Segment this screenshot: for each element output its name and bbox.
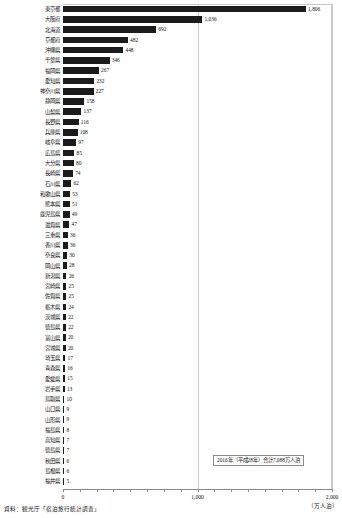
category-label: 愛知県 <box>0 76 60 86</box>
bar <box>63 108 81 115</box>
bar-and-value: 36 <box>63 240 75 250</box>
bar-row: 茨城県22 <box>0 312 342 322</box>
bar-row: 静岡県158 <box>0 96 342 106</box>
x-tick <box>181 489 182 492</box>
x-tick <box>164 489 165 492</box>
bar-row: 広島県85 <box>0 148 342 158</box>
bar-and-value: 9 <box>63 415 69 425</box>
bar-value-label: 108 <box>80 129 88 136</box>
bar <box>63 437 64 444</box>
category-label: 福島県 <box>0 425 60 435</box>
bar-row: 山口県9 <box>0 404 342 414</box>
bar-value-label: 22 <box>68 324 73 331</box>
bar <box>63 375 65 382</box>
legend-annotation-box: 2016年（平成28年）合計7,088万人泊 <box>213 455 304 466</box>
bar-value-label: 24 <box>68 304 73 311</box>
category-label: 広島県 <box>0 148 60 158</box>
bar <box>63 6 306 13</box>
category-label: 鳥取県 <box>0 394 60 404</box>
bar-value-label: 116 <box>81 119 89 126</box>
bar-and-value: 15 <box>63 374 73 384</box>
bar-and-value: 85 <box>63 148 82 158</box>
bar-and-value: 20 <box>63 343 73 353</box>
bar-row: 東京都1,806 <box>0 4 342 14</box>
bar <box>63 221 69 228</box>
category-label: 神奈川県 <box>0 86 60 96</box>
bar-row: 岡山県28 <box>0 261 342 271</box>
bar-value-label: 7 <box>66 447 69 454</box>
bar-and-value: 62 <box>63 179 79 189</box>
bar <box>63 396 64 403</box>
bar-and-value: 13 <box>63 384 72 394</box>
x-axis-unit-label: （万人泊） <box>308 502 338 510</box>
bar-value-label: 47 <box>72 221 77 228</box>
x-tick <box>80 489 81 492</box>
bar-row: 鳥取県10 <box>0 394 342 404</box>
bar-row: 山形県9 <box>0 415 342 425</box>
bar-chart: 東京都1,806大阪府1,036北海道692京都府482沖縄県448千葉県346… <box>0 0 342 518</box>
bar-and-value: 6 <box>63 456 69 466</box>
x-tick <box>282 489 283 492</box>
bar <box>63 78 94 85</box>
category-label: 兵庫県 <box>0 127 60 137</box>
bar-value-label: 62 <box>74 180 79 187</box>
bar-row: 栃木県24 <box>0 302 342 312</box>
bar-and-value: 22 <box>63 312 74 322</box>
bar-row: 兵庫県108 <box>0 127 342 137</box>
bar-row: 京都府482 <box>0 35 342 45</box>
bar-and-value: 53 <box>63 189 78 199</box>
category-label: 和歌山県 <box>0 189 60 199</box>
category-label: 宮城県 <box>0 343 60 353</box>
bar-value-label: 346 <box>112 57 120 64</box>
bar-value-label: 227 <box>96 88 104 95</box>
bar-value-label: 15 <box>67 375 72 382</box>
category-label: 大阪府 <box>0 14 60 24</box>
bar-and-value: 28 <box>63 261 74 271</box>
x-tick <box>248 489 249 492</box>
bar-and-value: 30 <box>63 250 75 260</box>
bar-value-label: 267 <box>101 67 109 74</box>
category-label: 徳島県 <box>0 322 60 332</box>
category-label: 静岡県 <box>0 96 60 106</box>
bar <box>63 365 65 372</box>
bar-and-value: 16 <box>63 363 73 373</box>
bar-value-label: 1,806 <box>308 6 320 13</box>
bar <box>63 468 64 475</box>
bar <box>63 304 66 311</box>
bar-row: 滋賀県47 <box>0 220 342 230</box>
bar-and-value: 24 <box>63 302 74 312</box>
bar-row: 富山県20 <box>0 333 342 343</box>
bar <box>63 129 78 136</box>
x-tick <box>231 489 232 492</box>
category-label: 岐阜県 <box>0 137 60 147</box>
x-tick <box>147 489 148 492</box>
bar-value-label: 20 <box>68 345 73 352</box>
bar-row: 宮城県20 <box>0 343 342 353</box>
bar-row: 埼玉県17 <box>0 353 342 363</box>
category-label: 秋田県 <box>0 456 60 466</box>
category-label: 石川県 <box>0 179 60 189</box>
bar <box>63 37 128 44</box>
bar-value-label: 25 <box>69 283 74 290</box>
bar-and-value: 25 <box>63 291 74 301</box>
x-tick <box>332 489 333 492</box>
bar-value-label: 85 <box>77 150 82 157</box>
bar-and-value: 7 <box>63 445 69 455</box>
bar-value-label: 20 <box>68 334 73 341</box>
bar-value-label: 6 <box>66 458 69 465</box>
category-label: 長崎県 <box>0 168 60 178</box>
bar-row: 青森県16 <box>0 363 342 373</box>
bar <box>63 26 156 33</box>
bar <box>63 57 110 64</box>
bar-and-value: 8 <box>63 425 69 435</box>
bar-row: 大阪府1,036 <box>0 14 342 24</box>
bar <box>63 170 73 177</box>
bar-and-value: 97 <box>63 137 84 147</box>
bar <box>63 252 67 259</box>
category-label: 奈良県 <box>0 250 60 260</box>
bar-and-value: 25 <box>63 281 74 291</box>
bar-value-label: 26 <box>69 273 74 280</box>
bar-value-label: 28 <box>69 262 74 269</box>
bar-and-value: 26 <box>63 271 74 281</box>
bar-and-value: 1,036 <box>63 14 217 24</box>
